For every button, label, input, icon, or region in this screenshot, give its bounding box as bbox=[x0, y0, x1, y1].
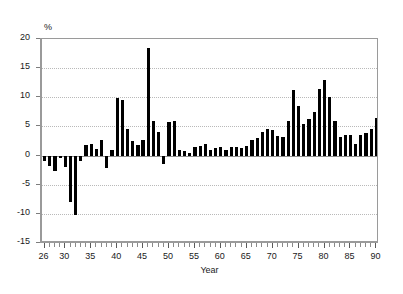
y-axis-tick-label: -15 bbox=[17, 237, 30, 246]
x-axis-tick-label: 90 bbox=[364, 251, 386, 261]
bar bbox=[339, 137, 342, 156]
x-axis-tick-label: 65 bbox=[235, 251, 257, 261]
bar bbox=[375, 118, 378, 156]
bar bbox=[318, 89, 321, 156]
x-axis-tick-label: 70 bbox=[261, 251, 283, 261]
x-axis-minor-tick bbox=[147, 243, 148, 247]
y-axis-unit-label: % bbox=[44, 22, 52, 32]
x-axis-minor-tick bbox=[132, 243, 133, 247]
bar bbox=[224, 150, 227, 156]
x-axis-major-tick bbox=[324, 243, 325, 248]
bar bbox=[214, 148, 217, 156]
x-axis-minor-tick bbox=[158, 243, 159, 247]
bar bbox=[53, 156, 56, 171]
x-axis-minor-tick bbox=[85, 243, 86, 247]
bar bbox=[147, 48, 150, 156]
bar bbox=[141, 140, 144, 156]
x-axis-minor-tick bbox=[360, 243, 361, 247]
x-axis-minor-tick bbox=[308, 243, 309, 247]
x-axis-minor-tick bbox=[70, 243, 71, 247]
x-axis-minor-tick bbox=[215, 243, 216, 247]
x-axis-minor-tick bbox=[178, 243, 179, 247]
chart-figure: % 20151050-5-10-15 263035404550556065707… bbox=[0, 0, 403, 294]
y-axis-tick-label: 0 bbox=[25, 150, 30, 159]
bar bbox=[344, 135, 347, 155]
x-axis-major-tick bbox=[116, 243, 117, 248]
bar bbox=[328, 97, 331, 155]
x-axis-tick-label: 26 bbox=[33, 251, 55, 261]
bar bbox=[245, 146, 248, 155]
x-axis-minor-tick bbox=[59, 243, 60, 247]
bar bbox=[281, 137, 284, 156]
bar bbox=[266, 129, 269, 155]
x-axis-minor-tick bbox=[75, 243, 76, 247]
x-axis-major-tick bbox=[220, 243, 221, 248]
y-axis-tick-label: -5 bbox=[22, 179, 30, 188]
bar bbox=[121, 100, 124, 155]
bar bbox=[43, 156, 46, 162]
x-axis-minor-tick bbox=[106, 243, 107, 247]
bar bbox=[333, 121, 336, 156]
bar bbox=[167, 122, 170, 156]
x-axis-tick-label: 45 bbox=[131, 251, 153, 261]
bar bbox=[105, 156, 108, 169]
x-axis-minor-tick bbox=[282, 243, 283, 247]
y-axis-tick-label: 20 bbox=[20, 33, 30, 42]
x-axis-major-tick bbox=[90, 243, 91, 248]
x-axis-minor-tick bbox=[261, 243, 262, 247]
bar bbox=[276, 136, 279, 155]
bar bbox=[204, 144, 207, 156]
bar bbox=[230, 147, 233, 156]
bar bbox=[188, 153, 191, 155]
x-axis-minor-tick bbox=[199, 243, 200, 247]
y-axis-tick-label: 15 bbox=[20, 62, 30, 71]
x-axis-minor-tick bbox=[287, 243, 288, 247]
x-axis-minor-tick bbox=[235, 243, 236, 247]
x-axis-minor-tick bbox=[49, 243, 50, 247]
x-axis-minor-tick bbox=[241, 243, 242, 247]
x-axis-minor-tick bbox=[152, 243, 153, 247]
bar bbox=[64, 156, 67, 168]
x-axis-tick-label: 50 bbox=[157, 251, 179, 261]
x-axis-minor-tick bbox=[173, 243, 174, 247]
bar bbox=[240, 148, 243, 156]
x-axis-minor-tick bbox=[230, 243, 231, 247]
x-axis-minor-tick bbox=[344, 243, 345, 247]
bar bbox=[235, 147, 238, 156]
x-axis-minor-tick bbox=[111, 243, 112, 247]
x-axis-minor-tick bbox=[80, 243, 81, 247]
x-axis-minor-tick bbox=[163, 243, 164, 247]
bar bbox=[74, 156, 77, 215]
x-axis-tick-label: 60 bbox=[209, 251, 231, 261]
x-axis-minor-tick bbox=[355, 243, 356, 247]
bar bbox=[126, 129, 129, 155]
y-axis-tick-label: -10 bbox=[17, 208, 30, 217]
y-axis-tick-label: 5 bbox=[25, 120, 30, 129]
bar bbox=[287, 121, 290, 156]
x-axis-major-tick bbox=[298, 243, 299, 248]
x-axis-minor-tick bbox=[370, 243, 371, 247]
bar-series bbox=[42, 39, 377, 241]
bar bbox=[178, 150, 181, 156]
bar bbox=[69, 156, 72, 203]
bar bbox=[349, 135, 352, 155]
y-axis: 20151050-5-10-15 bbox=[0, 38, 41, 242]
bar bbox=[79, 156, 82, 162]
x-axis-tick-label: 40 bbox=[105, 251, 127, 261]
x-axis-minor-tick bbox=[292, 243, 293, 247]
bar bbox=[256, 138, 259, 155]
x-axis-major-tick bbox=[194, 243, 195, 248]
x-axis-minor-tick bbox=[251, 243, 252, 247]
x-axis-minor-tick bbox=[127, 243, 128, 247]
x-axis-minor-tick bbox=[339, 243, 340, 247]
bar bbox=[157, 132, 160, 155]
bar bbox=[209, 150, 212, 156]
bar bbox=[307, 119, 310, 156]
bar bbox=[313, 112, 316, 156]
bar bbox=[131, 141, 134, 156]
bar bbox=[302, 124, 305, 156]
x-axis-minor-tick bbox=[329, 243, 330, 247]
bar bbox=[364, 133, 367, 155]
x-axis-tick-label: 35 bbox=[79, 251, 101, 261]
x-axis-tick-label: 85 bbox=[338, 251, 360, 261]
